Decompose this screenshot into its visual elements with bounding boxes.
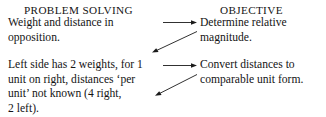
problem-statement-1-line-1: Weight and distance in (8, 16, 114, 31)
diagram-canvas: PROBLEM SOLVING Weight and distance in o… (0, 0, 326, 117)
objective-statement-1-line-2: magnitude. (200, 31, 287, 46)
problem-statement-2-line-1: Left side has 2 weights, for 1 (8, 58, 143, 73)
objective-statement-1-line-1: Determine relative (200, 16, 287, 31)
right-column-heading: OBJECTIVE (220, 4, 283, 16)
objective-statement-2-line-2: comparable unit form. (200, 73, 303, 88)
problem-statement-2-line-4: 2 left). (8, 102, 143, 117)
problem-statement-2-line-3: unit’ not known (4 right, (8, 87, 143, 102)
left-column-heading: PROBLEM SOLVING (24, 4, 133, 16)
right-column: OBJECTIVE Determine relative magnitude. … (163, 0, 326, 117)
problem-statement-1: Weight and distance in opposition. (8, 16, 114, 45)
problem-statement-1-line-2: opposition. (8, 31, 114, 46)
objective-statement-1: Determine relative magnitude. (200, 16, 287, 45)
problem-statement-2: Left side has 2 weights, for 1 unit on r… (8, 58, 143, 116)
objective-statement-2: Convert distances to comparable unit for… (200, 58, 303, 87)
left-column: PROBLEM SOLVING Weight and distance in o… (0, 0, 163, 117)
objective-statement-2-line-1: Convert distances to (200, 58, 303, 73)
problem-statement-2-line-2: unit on right, distances ‘per (8, 73, 143, 88)
